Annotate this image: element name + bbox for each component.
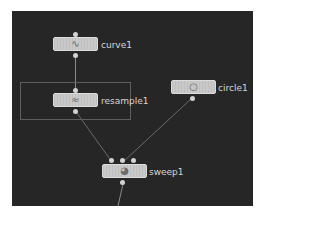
resample-icon: ≈	[71, 95, 79, 105]
curve-icon: ∿	[71, 39, 79, 49]
node-label-circle1: circle1	[218, 83, 248, 93]
node-circle1[interactable]: ○	[171, 80, 216, 94]
node-label-curve1: curve1	[101, 40, 132, 50]
node-sweep1[interactable]: ◕	[102, 164, 147, 178]
circle-icon: ○	[189, 82, 198, 92]
node-label-resample1: resample1	[101, 96, 149, 106]
sweep1-output-port[interactable]	[120, 180, 125, 185]
node-resample1[interactable]: ≈	[53, 93, 98, 107]
sweep1-input-port-1[interactable]	[120, 158, 125, 163]
sweep1-input-port-2[interactable]	[131, 158, 136, 163]
sweep-icon: ◕	[120, 166, 129, 176]
node-curve1[interactable]: ∿	[53, 37, 98, 51]
node-label-sweep1: sweep1	[149, 167, 184, 177]
resample1-output-port[interactable]	[73, 109, 78, 114]
circle1-output-port[interactable]	[190, 96, 195, 101]
curve1-output-port[interactable]	[73, 53, 78, 58]
sweep1-input-port-0[interactable]	[109, 158, 114, 163]
